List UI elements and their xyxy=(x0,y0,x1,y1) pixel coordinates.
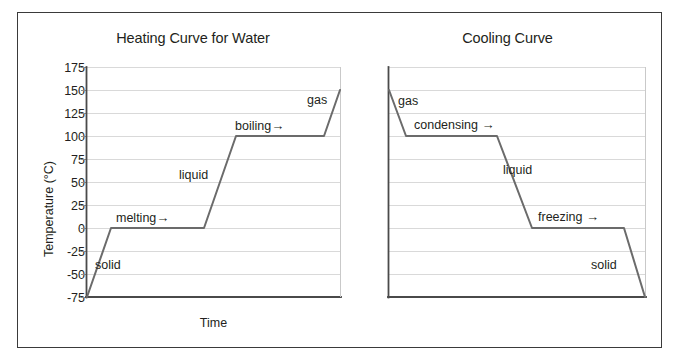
heating-curve-chart: Heating Curve for Water Temperature (°C)… xyxy=(18,13,368,349)
heating-cooling-curves-figure: Heating Curve for Water Temperature (°C)… xyxy=(0,0,677,361)
heating-x-axis-label: Time xyxy=(86,316,341,330)
heating-label-solid: solid xyxy=(95,258,121,272)
figure-frame: Heating Curve for Water Temperature (°C)… xyxy=(17,12,662,348)
heating-label-melting: melting→ xyxy=(116,210,168,225)
cooling-plot-svg xyxy=(368,13,663,349)
cooling-label-gas: gas xyxy=(398,94,418,108)
cooling-label-condensing: condensing → xyxy=(414,117,493,132)
cooling-label-freezing-text: freezing xyxy=(538,210,582,224)
cooling-label-condensing-arrow-icon: → xyxy=(481,117,493,132)
heating-label-melting-text: melting xyxy=(116,211,156,225)
cooling-label-freezing: freezing → xyxy=(538,209,598,224)
heating-curve-line xyxy=(87,90,340,297)
heating-label-boiling: boiling→ xyxy=(235,118,283,133)
cooling-label-condensing-text: condensing xyxy=(414,118,478,132)
cooling-curve-chart: Cooling Curve Temperature xyxy=(368,13,663,349)
heating-label-liquid: liquid xyxy=(179,168,208,182)
heating-label-gas: gas xyxy=(307,93,327,107)
cooling-label-liquid: liquid xyxy=(503,163,532,177)
heating-tick-marks xyxy=(81,68,86,298)
heating-label-boiling-arrow-icon: → xyxy=(271,118,283,133)
cooling-label-solid: solid xyxy=(591,258,617,272)
heating-label-boiling-text: boiling xyxy=(235,119,271,133)
cooling-label-freezing-arrow-icon: → xyxy=(586,209,598,224)
heating-gridlines xyxy=(86,68,341,275)
heating-label-melting-arrow-icon: → xyxy=(156,210,168,225)
